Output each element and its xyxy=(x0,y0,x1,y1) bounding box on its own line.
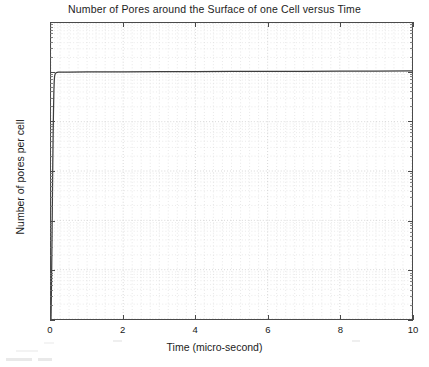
y-tick-minor xyxy=(50,106,53,107)
y-tick-minor xyxy=(50,191,53,192)
x-tick-label: 10 xyxy=(408,324,419,335)
y-tick-minor xyxy=(410,124,413,125)
y-tick-minor xyxy=(50,273,53,274)
y-tick-minor xyxy=(50,179,53,180)
y-tick-mark xyxy=(408,320,413,321)
y-tick-minor xyxy=(410,33,413,34)
y-tick-minor xyxy=(410,48,413,49)
y-tick-mark xyxy=(408,171,413,172)
y-tick-minor xyxy=(410,176,413,177)
x-tick-label: 4 xyxy=(193,324,198,335)
x-tick-mark xyxy=(123,22,124,27)
scan-artifact xyxy=(352,340,360,342)
y-tick-minor xyxy=(50,30,53,31)
y-tick-minor xyxy=(50,132,53,133)
y-tick-minor xyxy=(50,236,53,237)
y-tick-minor xyxy=(50,156,53,157)
y-tick-minor xyxy=(50,37,53,38)
y-tick-minor xyxy=(50,182,53,183)
y-tick-minor xyxy=(50,129,53,130)
y-tick-minor xyxy=(410,106,413,107)
y-tick-mark xyxy=(408,121,413,122)
x-tick-label: 6 xyxy=(265,324,270,335)
y-tick-minor xyxy=(410,240,413,241)
y-tick-minor xyxy=(50,48,53,49)
y-tick-minor xyxy=(410,156,413,157)
y-tick-minor xyxy=(410,91,413,92)
data-series-pores xyxy=(51,23,412,319)
y-tick-minor xyxy=(410,136,413,137)
x-tick-mark xyxy=(340,315,341,320)
y-axis-label: Number of pores per cell xyxy=(14,97,26,257)
y-tick-minor xyxy=(410,225,413,226)
y-tick-minor xyxy=(50,79,53,80)
y-tick-minor xyxy=(50,57,53,58)
y-tick-minor xyxy=(410,296,413,297)
y-tick-mark xyxy=(408,270,413,271)
x-tick-mark xyxy=(50,315,51,320)
x-tick-mark xyxy=(195,22,196,27)
y-tick-minor xyxy=(50,206,53,207)
y-tick-minor xyxy=(410,179,413,180)
y-tick-minor xyxy=(410,141,413,142)
y-tick-minor xyxy=(50,87,53,88)
chart-figure: Number of Pores around the Surface of on… xyxy=(0,0,429,367)
y-tick-minor xyxy=(410,83,413,84)
y-tick-minor xyxy=(410,182,413,183)
y-tick-mark xyxy=(50,121,55,122)
y-tick-minor xyxy=(410,87,413,88)
y-tick-minor xyxy=(50,275,53,276)
x-tick-mark xyxy=(268,22,269,27)
y-tick-minor xyxy=(50,186,53,187)
y-tick-minor xyxy=(410,79,413,80)
y-tick-minor xyxy=(50,225,53,226)
y-tick-minor xyxy=(410,57,413,58)
y-tick-minor xyxy=(410,305,413,306)
y-tick-minor xyxy=(50,141,53,142)
y-tick-mark xyxy=(408,72,413,73)
x-tick-mark xyxy=(340,22,341,27)
y-tick-minor xyxy=(410,98,413,99)
y-tick-minor xyxy=(410,285,413,286)
y-tick-minor xyxy=(50,98,53,99)
y-tick-minor xyxy=(50,83,53,84)
x-axis-label: Time (micro-second) xyxy=(0,341,429,353)
y-tick-minor xyxy=(50,126,53,127)
x-tick-mark xyxy=(195,315,196,320)
x-tick-label: 0 xyxy=(47,324,52,335)
y-tick-minor xyxy=(410,290,413,291)
chart-title: Number of Pores around the Surface of on… xyxy=(0,3,429,15)
y-tick-minor xyxy=(50,197,53,198)
y-tick-minor xyxy=(50,173,53,174)
y-tick-minor xyxy=(50,74,53,75)
scan-artifact xyxy=(113,340,122,342)
y-tick-minor xyxy=(410,74,413,75)
y-tick-minor xyxy=(50,232,53,233)
x-tick-mark xyxy=(50,22,51,27)
y-tick-mark xyxy=(50,270,55,271)
y-tick-minor xyxy=(410,275,413,276)
y-tick-minor xyxy=(410,42,413,43)
y-tick-mark xyxy=(50,221,55,222)
y-tick-minor xyxy=(50,228,53,229)
y-tick-minor xyxy=(50,247,53,248)
scan-artifact xyxy=(16,350,38,352)
y-tick-minor xyxy=(50,305,53,306)
y-tick-minor xyxy=(410,247,413,248)
y-tick-minor xyxy=(50,42,53,43)
x-tick-mark xyxy=(413,315,414,320)
y-tick-minor xyxy=(410,273,413,274)
y-tick-minor xyxy=(50,33,53,34)
y-tick-minor xyxy=(410,132,413,133)
plot-area xyxy=(50,22,413,320)
y-tick-minor xyxy=(410,147,413,148)
y-tick-minor xyxy=(410,126,413,127)
y-tick-minor xyxy=(410,206,413,207)
y-tick-minor xyxy=(50,278,53,279)
y-tick-minor xyxy=(50,290,53,291)
y-tick-minor xyxy=(410,197,413,198)
x-tick-mark xyxy=(413,22,414,27)
y-tick-minor xyxy=(50,285,53,286)
y-tick-minor xyxy=(410,186,413,187)
y-tick-minor xyxy=(410,278,413,279)
